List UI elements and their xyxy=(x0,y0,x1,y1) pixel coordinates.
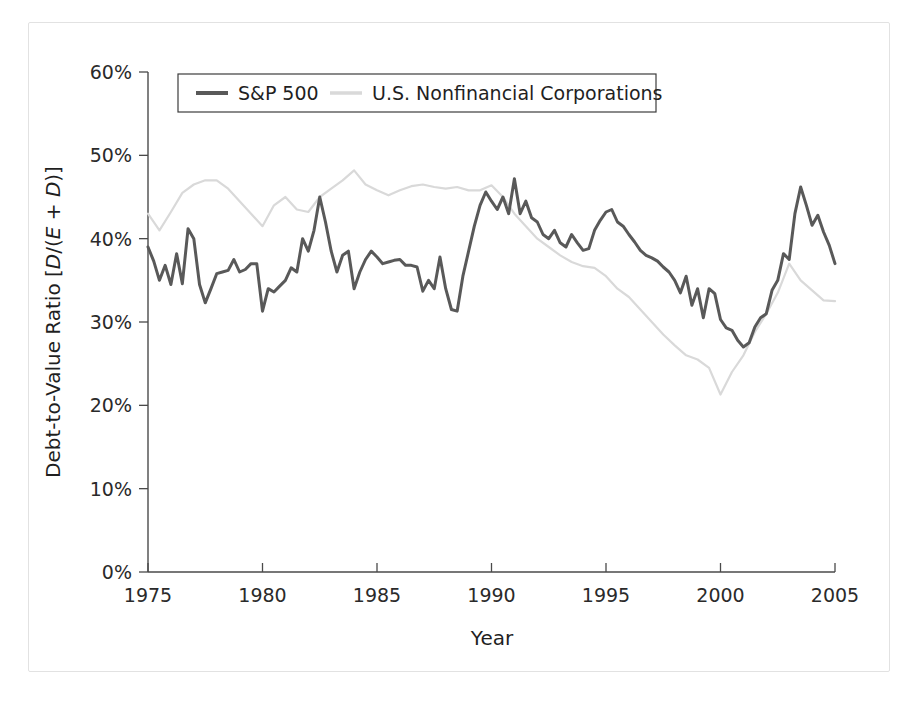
y-tick-label: 50% xyxy=(90,144,132,166)
x-axis-ticks xyxy=(148,563,835,572)
series-line-sp500 xyxy=(148,179,835,347)
chart-figure: 0%10%20%30%40%50%60% 1975198019851990199… xyxy=(0,0,922,702)
y-axis-title-middle: /( xyxy=(41,239,65,254)
x-tick-label: 1985 xyxy=(353,584,401,606)
x-tick-label: 1995 xyxy=(582,584,630,606)
y-axis-title-numerator: D xyxy=(41,254,65,269)
y-tick-label: 60% xyxy=(90,61,132,83)
y-tick-label: 20% xyxy=(90,394,132,416)
x-tick-label: 1975 xyxy=(124,584,172,606)
x-tick-label: 2000 xyxy=(696,584,744,606)
series-line-us-nonfinancial-corporations xyxy=(148,170,835,394)
y-axis-tick-labels: 0%10%20%30%40%50%60% xyxy=(90,61,132,583)
legend-label-us-nonfinancial: U.S. Nonfinancial Corporations xyxy=(372,82,662,104)
legend-label-sp500: S&P 500 xyxy=(238,82,319,104)
line-chart: 0%10%20%30%40%50%60% 1975198019851990199… xyxy=(0,0,922,702)
y-axis-title-plus: + xyxy=(41,197,65,226)
y-axis-ticks xyxy=(139,72,148,572)
svg-text:Debt-to-Value Ratio [D/(E + D): Debt-to-Value Ratio [D/(E + D)] xyxy=(41,166,65,478)
chart-legend: S&P 500 U.S. Nonfinancial Corporations xyxy=(178,74,662,112)
x-axis-title: Year xyxy=(470,626,514,650)
y-tick-label: 40% xyxy=(90,228,132,250)
x-tick-label: 1990 xyxy=(467,584,515,606)
y-axis-title-denominator-d: D xyxy=(41,182,65,197)
plot-area-wrapper: 0%10%20%30%40%50%60% 1975198019851990199… xyxy=(0,0,922,702)
y-tick-label: 30% xyxy=(90,311,132,333)
y-axis-title-suffix: )] xyxy=(41,166,65,182)
y-tick-label: 10% xyxy=(90,478,132,500)
x-tick-label: 2005 xyxy=(811,584,859,606)
y-axis-title-prefix: Debt-to-Value Ratio [ xyxy=(41,269,65,478)
x-axis-tick-labels: 1975198019851990199520002005 xyxy=(124,584,859,606)
y-tick-label: 0% xyxy=(102,561,132,583)
y-axis-title: Debt-to-Value Ratio [D/(E + D)] xyxy=(41,166,65,478)
x-tick-label: 1980 xyxy=(238,584,286,606)
y-axis-title-denominator-e: E xyxy=(41,226,65,239)
